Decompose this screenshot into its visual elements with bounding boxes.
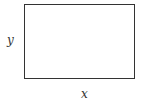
x-side-label: x — [81, 88, 88, 100]
y-side-label: y — [7, 34, 14, 46]
rectangle-shape — [24, 4, 135, 79]
